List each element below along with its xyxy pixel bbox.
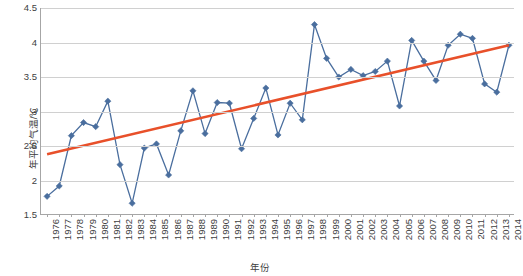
- x-tick: [412, 214, 413, 217]
- x-tick: [108, 214, 109, 217]
- x-tick-label: 1980: [100, 219, 110, 240]
- x-tick-label: 1991: [233, 219, 243, 240]
- data-point-marker: [166, 172, 172, 178]
- gridline: [41, 43, 514, 44]
- x-tick-label: 2012: [489, 219, 499, 240]
- x-tick-label: 2013: [501, 219, 511, 240]
- data-point-marker: [251, 115, 257, 121]
- x-tick-label: 1997: [306, 219, 316, 240]
- x-tick: [120, 214, 121, 217]
- data-point-marker: [396, 103, 402, 109]
- x-tick-label: 2006: [416, 219, 426, 240]
- x-tick: [242, 214, 243, 217]
- x-tick: [229, 214, 230, 217]
- y-tick-label: 3: [32, 107, 37, 117]
- x-tick: [327, 214, 328, 217]
- x-tick-label: 1998: [318, 219, 328, 240]
- x-tick: [314, 214, 315, 217]
- x-tick-label: 2001: [355, 219, 365, 240]
- x-tick: [436, 214, 437, 217]
- x-tick-label: 1987: [185, 219, 195, 240]
- x-tick-label: 1999: [331, 219, 341, 240]
- data-point-marker: [421, 58, 427, 64]
- y-tick-label: 4.5: [24, 3, 37, 13]
- gridline: [41, 181, 514, 182]
- x-tick: [472, 214, 473, 217]
- x-tick: [278, 214, 279, 217]
- x-tick-label: 1985: [160, 219, 170, 240]
- x-tick-label: 1977: [63, 219, 73, 240]
- gridline: [41, 8, 514, 9]
- x-tick-label: 1992: [246, 219, 256, 240]
- data-point-marker: [190, 88, 196, 94]
- x-tick-label: 1996: [294, 219, 304, 240]
- x-tick: [302, 214, 303, 217]
- x-tick: [169, 214, 170, 217]
- data-point-marker: [469, 35, 475, 41]
- x-tick-label: 2010: [464, 219, 474, 240]
- x-tick: [84, 214, 85, 217]
- x-tick-label: 2008: [440, 219, 450, 240]
- y-tick-label: 2.5: [24, 141, 37, 151]
- x-tick: [509, 214, 510, 217]
- x-tick: [181, 214, 182, 217]
- x-tick: [400, 214, 401, 217]
- x-tick-label: 1995: [282, 219, 292, 240]
- x-tick-label: 1989: [209, 219, 219, 240]
- x-tick: [96, 214, 97, 217]
- x-tick-label: 2005: [404, 219, 414, 240]
- data-point-marker: [263, 85, 269, 91]
- y-tick-label: 2: [32, 176, 37, 186]
- x-tick-label: 1976: [51, 219, 61, 240]
- x-axis-title: 年份: [0, 260, 519, 274]
- x-tick: [497, 214, 498, 217]
- data-point-marker: [433, 77, 439, 83]
- data-point-marker: [105, 98, 111, 104]
- x-tick-label: 1982: [124, 219, 134, 240]
- x-tick-label: 1983: [136, 219, 146, 240]
- data-point-marker: [311, 21, 317, 27]
- x-tick-label: 2000: [343, 219, 353, 240]
- data-point-marker: [129, 200, 135, 206]
- gridline: [41, 112, 514, 113]
- x-tick: [156, 214, 157, 217]
- x-tick-label: 2007: [428, 219, 438, 240]
- x-tick: [290, 214, 291, 217]
- x-tick: [144, 214, 145, 217]
- x-tick: [339, 214, 340, 217]
- x-tick: [448, 214, 449, 217]
- data-line: [47, 25, 509, 204]
- x-tick-label: 1981: [112, 219, 122, 240]
- x-tick-label: 1978: [75, 219, 85, 240]
- data-point-marker: [93, 124, 99, 130]
- y-tick-label: 4: [32, 38, 37, 48]
- x-tick: [59, 214, 60, 217]
- y-tick-label: 3.5: [24, 72, 37, 82]
- x-tick-label: 1986: [173, 219, 183, 240]
- x-tick-label: 1990: [221, 219, 231, 240]
- data-point-marker: [117, 162, 123, 168]
- x-tick: [193, 214, 194, 217]
- x-tick-label: 2002: [367, 219, 377, 240]
- x-tick: [375, 214, 376, 217]
- x-tick-label: 1988: [197, 219, 207, 240]
- data-point-marker: [226, 100, 232, 106]
- x-tick: [351, 214, 352, 217]
- x-tick-label: 2003: [379, 219, 389, 240]
- x-tick: [47, 214, 48, 217]
- x-tick-label: 2014: [513, 219, 523, 240]
- x-tick-label: 1993: [258, 219, 268, 240]
- data-point-marker: [178, 128, 184, 134]
- x-tick-label: 1984: [148, 219, 158, 240]
- x-tick: [266, 214, 267, 217]
- data-point-marker: [202, 130, 208, 136]
- x-tick: [485, 214, 486, 217]
- x-tick: [460, 214, 461, 217]
- plot-area: 1.522.533.544.51976197719781979198019811…: [40, 8, 514, 215]
- x-tick: [217, 214, 218, 217]
- x-tick: [363, 214, 364, 217]
- data-point-marker: [214, 99, 220, 105]
- x-tick-label: 1979: [88, 219, 98, 240]
- x-tick-label: 2004: [391, 219, 401, 240]
